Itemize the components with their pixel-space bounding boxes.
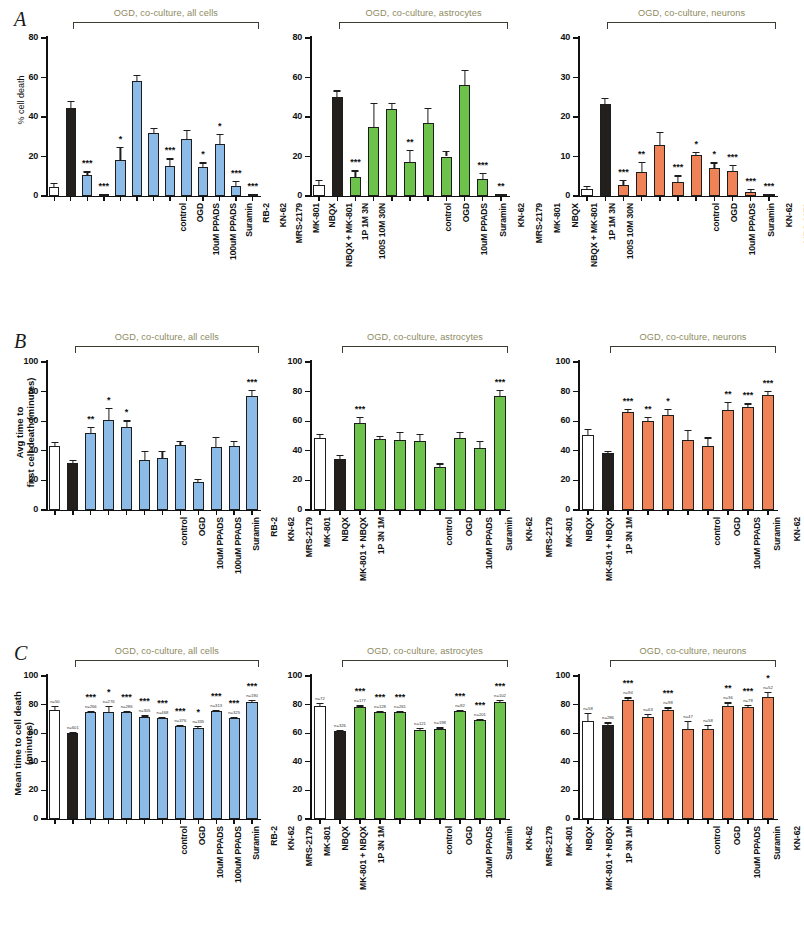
error-bar-cap [725, 702, 732, 703]
bar [702, 729, 714, 819]
x-tick [767, 820, 768, 824]
bar [682, 729, 694, 819]
x-tick-label: control [712, 826, 722, 939]
error-bar-cap [765, 692, 772, 693]
significance-marker: * [766, 675, 770, 682]
x-tick [627, 820, 628, 824]
value-annotation: n=63 [643, 707, 652, 712]
error-bar-cap [585, 713, 592, 714]
group-title: OGD, co-culture, neurons [639, 646, 746, 656]
bar-slot [722, 706, 734, 819]
y-tick-label: 40 [542, 756, 570, 766]
bar-slot [762, 697, 774, 819]
x-tick [687, 820, 688, 824]
x-tick-label: Suramin [772, 826, 782, 939]
x-tick [727, 820, 728, 824]
value-annotation: n=58 [703, 718, 712, 723]
significance-marker: ** [724, 685, 731, 692]
x-tick [647, 820, 648, 824]
y-tick-label: 0 [542, 813, 570, 823]
bar-slot [662, 710, 674, 819]
y-tick [573, 761, 578, 762]
bar [722, 706, 734, 819]
value-annotation: n=286 [602, 715, 614, 720]
y-tick [573, 790, 578, 791]
error-bar-cap [745, 705, 752, 706]
y-tick [573, 675, 578, 676]
x-tick-label: 10uM PPADS [752, 826, 762, 939]
x-tick [607, 820, 608, 824]
bar [742, 707, 754, 819]
x-tick-label: OGD [732, 826, 742, 939]
error-bar-cap [645, 714, 652, 715]
error-bar-cap [665, 707, 672, 708]
value-annotation: n=52 [763, 685, 772, 690]
x-tick [747, 820, 748, 824]
x-tick [707, 820, 708, 824]
x-tick [667, 820, 668, 824]
chart-c-3: 020406080100OGD, co-culture, neuronsn=58… [0, 0, 804, 939]
y-tick [573, 733, 578, 734]
bar-slot [582, 721, 594, 819]
y-tick-label: 100 [542, 670, 570, 680]
y-tick-label: 80 [542, 699, 570, 709]
value-annotation: n=47 [683, 714, 692, 719]
group-bracket [610, 660, 775, 667]
value-annotation: n=78 [743, 698, 752, 703]
error-bar-cap [605, 722, 612, 723]
y-axis [578, 674, 580, 819]
value-annotation: n=36 [723, 695, 732, 700]
significance-marker: *** [623, 680, 634, 687]
bar [602, 725, 614, 819]
bar [662, 710, 674, 819]
y-tick-label: 20 [542, 784, 570, 794]
bar-slot [742, 707, 754, 819]
x-tick-label: KN-62 [792, 826, 802, 939]
bar [582, 721, 594, 819]
value-annotation: n=58 [583, 706, 592, 711]
bar [642, 717, 654, 819]
bar [762, 697, 774, 819]
error-bar-cap [685, 721, 692, 722]
value-annotation: n=98 [663, 700, 672, 705]
bar [622, 700, 634, 819]
y-tick [573, 704, 578, 705]
y-tick-label: 60 [542, 727, 570, 737]
bar-slot [642, 717, 654, 819]
bar-slot [622, 700, 634, 819]
bar-slot [702, 729, 714, 819]
y-tick [573, 818, 578, 819]
error-bar-cap [705, 725, 712, 726]
significance-marker: *** [663, 690, 674, 697]
x-tick [587, 820, 588, 824]
bar-slot [682, 729, 694, 819]
error-bar-cap [625, 697, 632, 698]
value-annotation: n=94 [623, 690, 632, 695]
significance-marker: *** [743, 688, 754, 695]
figure-root: A% cell death020406080OGD, co-culture, a… [0, 0, 804, 939]
bar-slot [602, 725, 614, 819]
